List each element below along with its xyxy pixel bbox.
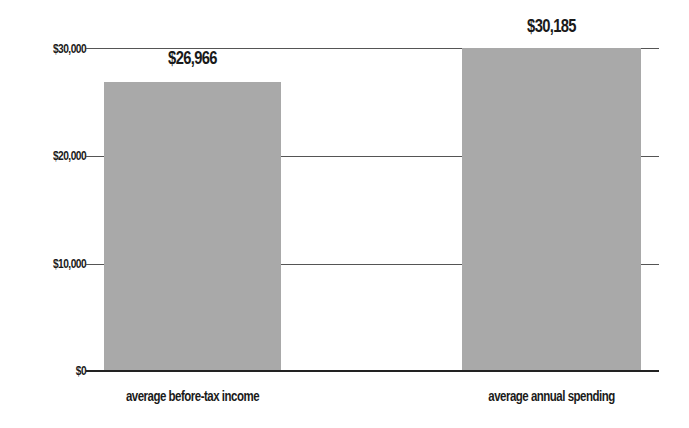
y-tick-label-20000: $20,000 bbox=[53, 149, 86, 163]
x-axis-line bbox=[86, 370, 659, 372]
bar-before-tax-income bbox=[104, 82, 281, 371]
category-label-annual-spending: average annual spending bbox=[470, 388, 633, 404]
y-tick-label-10000: $10,000 bbox=[53, 257, 86, 271]
value-label-annual-spending: $30,185 bbox=[478, 16, 625, 37]
bar-annual-spending bbox=[462, 48, 641, 371]
y-tick-label-0: $0 bbox=[76, 364, 86, 378]
y-tick-label-30000: $30,000 bbox=[53, 42, 86, 56]
value-label-before-tax-income: $26,966 bbox=[120, 48, 265, 69]
category-label-before-tax-income: average before-tax income bbox=[112, 388, 274, 404]
